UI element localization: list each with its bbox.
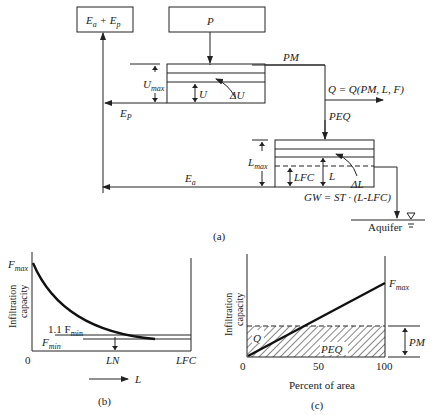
peq-region-label: PEQ	[320, 343, 342, 355]
svg-text:LFC: LFC	[175, 354, 197, 366]
upper-zone-box	[167, 64, 265, 103]
chart-c: Q PEQ Fmax PM Infiltration capacity 0 50…	[223, 254, 426, 412]
fmin-b: Fmin	[41, 336, 61, 351]
svg-text:capacity: capacity	[234, 293, 245, 326]
peq-label: PEQ	[328, 110, 350, 122]
xlabel-c: Percent of area	[289, 379, 355, 391]
pm-label: PM	[282, 51, 300, 63]
svg-text:LN: LN	[105, 354, 120, 366]
u-label: U	[199, 88, 208, 100]
caption-b: (b)	[98, 395, 111, 408]
lfc-label: LFC	[293, 171, 315, 183]
svg-text:Infiltration: Infiltration	[223, 293, 234, 336]
svg-text:100: 100	[376, 360, 393, 372]
evap-box-label: Ea + Ep	[85, 14, 120, 29]
hatched-region	[247, 326, 385, 357]
fmax-b: Fmax	[7, 258, 29, 273]
delta-u-label: ΔU	[229, 89, 245, 101]
chart-b: Fmax 1.1 Fmin Fmin Infiltration capacity…	[7, 252, 197, 408]
svg-text:0: 0	[25, 354, 31, 366]
lmax-label: Lmax	[247, 156, 268, 171]
ylabel-b-2: capacity	[18, 285, 29, 318]
aquifer-label: Aquifer	[368, 221, 403, 233]
umax-label: Umax	[143, 78, 165, 93]
gw-label: GW = ST · (L-LFC)	[304, 191, 391, 204]
diagram-a: Ea + Ep P Umax U ΔU EP PM	[77, 7, 425, 243]
caption-c: (c)	[311, 399, 324, 412]
q-region-label: Q	[253, 332, 261, 344]
svg-text:50: 50	[313, 360, 325, 372]
f11-b: 1.1 Fmin	[48, 323, 83, 338]
q-label: Q = Q(PM, L, F)	[328, 83, 404, 96]
svg-text:0: 0	[240, 360, 246, 372]
ep-label: EP	[119, 107, 132, 122]
fmax-c: Fmax	[388, 277, 410, 292]
hydrology-model-figure: Ea + Ep P Umax U ΔU EP PM	[0, 0, 434, 415]
l-label: L	[328, 170, 335, 182]
svg-text:L: L	[134, 373, 141, 385]
precip-label: P	[206, 15, 214, 27]
pm-c-label: PM	[408, 336, 426, 348]
precip-box	[169, 7, 265, 32]
ylabel-b-1: Infiltration	[7, 285, 18, 328]
caption-a: (a)	[213, 230, 226, 243]
ea-label: Ea	[184, 172, 196, 187]
delta-l-label: ΔL	[350, 178, 364, 190]
water-table-icon	[407, 213, 415, 219]
